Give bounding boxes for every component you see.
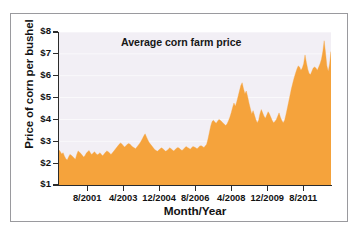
y-tick: $3 — [53, 141, 58, 142]
y-tick-mark — [53, 53, 58, 54]
y-tick-label: $4 — [40, 113, 51, 124]
y-tick: $8 — [53, 31, 58, 32]
x-tick-label: 12/2004 — [142, 193, 176, 204]
x-tick-mark — [123, 186, 124, 191]
y-tick-mark — [53, 97, 58, 98]
plot-area — [59, 32, 331, 185]
y-tick-mark — [53, 31, 58, 32]
y-tick-label: $1 — [40, 178, 51, 189]
area-chart-svg — [59, 32, 331, 185]
figure-inner: Price of corn per bushel $1$2$3$4$5$6$7$… — [11, 14, 347, 221]
figure-frame: Price of corn per bushel $1$2$3$4$5$6$7$… — [10, 13, 348, 222]
y-tick-label: $8 — [40, 25, 51, 36]
x-tick-mark — [159, 186, 160, 191]
x-tick-mark — [303, 186, 304, 191]
y-tick: $4 — [53, 119, 58, 120]
x-tick-mark — [267, 186, 268, 191]
x-tick-mark — [231, 186, 232, 191]
x-tick-label: 12/2009 — [250, 193, 284, 204]
y-tick-mark — [53, 184, 58, 185]
x-tick-label: 8/2011 — [289, 193, 317, 204]
y-tick-mark — [53, 75, 58, 76]
y-axis-line — [58, 32, 59, 186]
y-tick: $7 — [53, 53, 58, 54]
y-tick-mark — [53, 163, 58, 164]
x-axis-title: Month/Year — [59, 204, 331, 218]
y-tick: $1 — [53, 184, 58, 185]
x-tick-label: 4/2003 — [109, 193, 137, 204]
y-tick-label: $6 — [40, 69, 51, 80]
x-tick-mark — [195, 186, 196, 191]
y-tick-label: $3 — [40, 135, 51, 146]
x-tick-label: 8/2001 — [73, 193, 101, 204]
y-axis-title: Price of corn per bushel — [23, 4, 35, 164]
x-tick-label: 8/2006 — [181, 193, 209, 204]
y-tick-label: $5 — [40, 91, 51, 102]
y-tick: $6 — [53, 75, 58, 76]
y-tick-label: $7 — [40, 47, 51, 58]
y-tick-mark — [53, 119, 58, 120]
area-series-corn-price — [59, 41, 331, 185]
y-tick-mark — [53, 141, 58, 142]
chart-title: Average corn farm price — [121, 36, 241, 48]
y-tick: $5 — [53, 97, 58, 98]
y-tick-label: $2 — [40, 157, 51, 168]
y-tick: $2 — [53, 163, 58, 164]
x-tick-label: 4/2008 — [217, 193, 245, 204]
x-tick-mark — [87, 186, 88, 191]
